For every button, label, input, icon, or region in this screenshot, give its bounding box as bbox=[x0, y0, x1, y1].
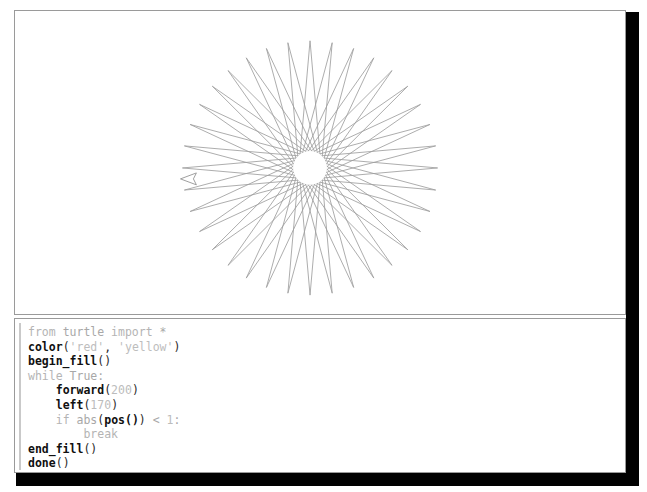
token-string-yellow: 'yellow' bbox=[118, 340, 173, 354]
turtle-cursor-arrow bbox=[180, 173, 196, 185]
screenshot-root: from turtle import *color('red', 'yellow… bbox=[0, 0, 647, 492]
code-line-9: end_fill() bbox=[28, 442, 621, 457]
token-indent bbox=[28, 398, 56, 412]
token-left-fn: left bbox=[56, 398, 84, 412]
source-code-panel[interactable]: from turtle import *color('red', 'yellow… bbox=[14, 318, 626, 473]
token-import: import bbox=[111, 325, 153, 339]
token-indent bbox=[28, 427, 83, 441]
code-line-8: break bbox=[28, 427, 621, 442]
token-parens: () bbox=[83, 442, 97, 456]
token-star: * bbox=[153, 325, 167, 339]
token-while: while bbox=[28, 369, 63, 383]
token-forward-fn: forward bbox=[56, 383, 104, 397]
token-lt: < bbox=[146, 413, 167, 427]
code-line-1: from turtle import * bbox=[28, 325, 621, 340]
window-drop-shadow-bottom bbox=[16, 473, 639, 486]
token-parens: () bbox=[97, 354, 111, 368]
code-line-3: begin_fill() bbox=[28, 354, 621, 369]
token-paren-close: ) bbox=[132, 383, 139, 397]
token-paren-close: ) bbox=[173, 340, 180, 354]
token-end-fill-fn: end_fill bbox=[28, 442, 83, 456]
code-line-2: color('red', 'yellow') bbox=[28, 340, 621, 355]
token-if: if bbox=[56, 413, 70, 427]
code-line-6: left(170) bbox=[28, 398, 621, 413]
code-line-10: done() bbox=[28, 456, 621, 471]
token-color-fn: color bbox=[28, 340, 63, 354]
turtle-cursor bbox=[180, 173, 196, 185]
token-module: turtle bbox=[56, 325, 111, 339]
token-pos-fn: pos() bbox=[104, 413, 139, 427]
token-indent bbox=[28, 383, 56, 397]
token-true: True: bbox=[63, 369, 105, 383]
star-center-hole bbox=[293, 151, 327, 185]
token-parens: () bbox=[56, 456, 70, 470]
code-line-5: forward(200) bbox=[28, 383, 621, 398]
code-line-7: if abs(pos()) < 1: bbox=[28, 413, 621, 428]
turtle-drawing-canvas[interactable] bbox=[15, 11, 625, 314]
token-paren-close: ) bbox=[111, 398, 118, 412]
code-line-4: while True: bbox=[28, 369, 621, 384]
token-abs: abs bbox=[70, 413, 98, 427]
token-done-fn: done bbox=[28, 456, 56, 470]
star-polygon bbox=[182, 41, 437, 295]
token-paren-close: ) bbox=[139, 413, 146, 427]
token-begin-fill-fn: begin_fill bbox=[28, 354, 97, 368]
token-string-red: 'red' bbox=[70, 340, 105, 354]
turtle-graphics-window[interactable] bbox=[14, 10, 626, 315]
token-colon: : bbox=[173, 413, 180, 427]
token-indent bbox=[28, 413, 56, 427]
token-number-170: 170 bbox=[90, 398, 111, 412]
window-drop-shadow-right bbox=[626, 12, 639, 486]
token-number-200: 200 bbox=[111, 383, 132, 397]
code-block: from turtle import *color('red', 'yellow… bbox=[19, 323, 621, 470]
code-listing[interactable]: from turtle import *color('red', 'yellow… bbox=[28, 325, 621, 471]
token-from: from bbox=[28, 325, 56, 339]
token-comma: , bbox=[104, 340, 118, 354]
token-paren-open: ( bbox=[63, 340, 70, 354]
token-break: break bbox=[83, 427, 118, 441]
